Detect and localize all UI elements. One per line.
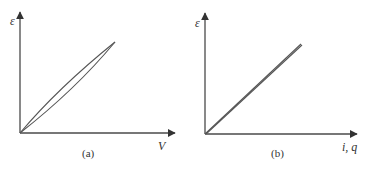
- x-axis-label-a: V: [158, 139, 167, 153]
- x-axis-label-b: i, q: [342, 140, 357, 154]
- relation-line-upper-b: [205, 44, 301, 134]
- caption-a: (a): [82, 147, 95, 160]
- hysteresis-lower-curve-a: [20, 42, 115, 133]
- panel-a: ε V (a): [10, 12, 175, 160]
- caption-b: (b): [271, 147, 284, 160]
- y-axis-label-b: ε: [195, 16, 200, 30]
- relation-line-lower-b: [206, 45, 302, 134]
- y-axis-label-a: ε: [10, 14, 15, 28]
- hysteresis-upper-curve-a: [20, 42, 115, 133]
- figure-canvas: ε V (a) ε i, q (b): [0, 0, 371, 169]
- panel-b: ε i, q (b): [195, 13, 357, 160]
